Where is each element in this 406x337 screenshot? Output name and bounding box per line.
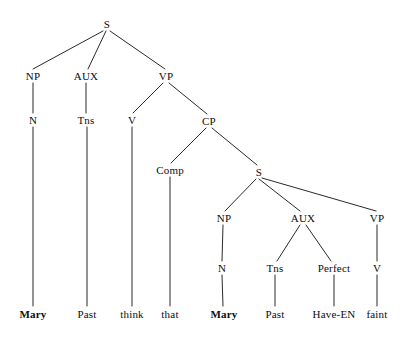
node-perfect: Perfect <box>318 263 351 274</box>
terminal-word-past-2: Past <box>265 309 284 320</box>
terminal-word-think: think <box>120 309 144 320</box>
node-comp: Comp <box>156 165 184 176</box>
terminal-word-faint: faint <box>366 309 387 320</box>
node-v-embedded: V <box>373 263 381 274</box>
node-s-root: S <box>104 19 110 30</box>
node-cp: CP <box>202 116 216 127</box>
terminal-word-past-1: Past <box>77 309 96 320</box>
node-v-matrix: V <box>128 115 136 126</box>
node-np-matrix: NP <box>26 71 40 82</box>
terminal-word-mary-1: Mary <box>19 309 46 320</box>
node-vp-embedded: VP <box>370 213 384 224</box>
terminal-word-have-en: Have-EN <box>313 309 356 320</box>
node-np-embedded: NP <box>217 213 231 224</box>
terminal-word-mary-2: Mary <box>210 309 237 320</box>
syntax-tree-figure: SNPAUXVPNTnsVCPCompSNPAUXVPNTnsPerfectVM… <box>0 0 406 337</box>
node-s-embedded: S <box>256 167 262 178</box>
node-aux-matrix: AUX <box>74 71 98 82</box>
terminal-word-that: that <box>161 309 178 320</box>
node-n-matrix: N <box>29 115 37 126</box>
node-tns-matrix: Tns <box>77 115 94 126</box>
tree-nodes: SNPAUXVPNTnsVCPCompSNPAUXVPNTnsPerfectVM… <box>0 0 406 337</box>
node-n-embedded: N <box>218 263 226 274</box>
node-aux-embedded: AUX <box>291 213 315 224</box>
node-vp-matrix: VP <box>159 71 173 82</box>
node-tns-embedded: Tns <box>266 263 283 274</box>
